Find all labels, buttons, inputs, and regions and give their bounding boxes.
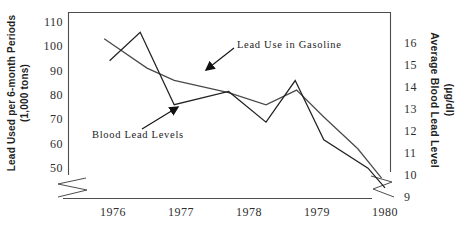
arrow-to-blood-line-icon	[142, 107, 178, 129]
right-axis-title: Average Blood Lead Level	[429, 32, 441, 168]
right-axis-title-unit: (µg/dl)	[444, 83, 456, 116]
left-tick-label-90: 90	[50, 64, 63, 78]
left-axis-title-line1: Lead Used per 6-month Periods	[5, 15, 18, 171]
left-tick-label-80: 80	[50, 88, 63, 102]
left-axis-break-icon	[58, 178, 87, 197]
x-tick-label-1980: 1980	[372, 205, 398, 219]
left-axis-title: Lead Used per 6-month Periods (1,000 ton…	[5, 15, 31, 171]
right-tick-label-11: 11	[404, 146, 417, 160]
left-tick-label-70: 70	[50, 112, 63, 126]
right-tick-label-9: 9	[404, 190, 411, 204]
left-tick-label-60: 60	[50, 137, 63, 151]
right-tick-label-10: 10	[404, 168, 417, 182]
x-tick-label-1979: 1979	[304, 205, 330, 219]
right-tick-label-15: 15	[404, 58, 417, 72]
right-tick-label-13: 13	[404, 102, 417, 116]
left-tick-label-50: 50	[50, 161, 63, 175]
gasoline-series-label: Lead Use in Gasoline	[237, 39, 342, 50]
lead-gasoline-blood-lead-chart: 1101009080706050161514131211109197619771…	[0, 0, 469, 232]
x-tick-label-1976: 1976	[100, 205, 126, 219]
axis-frame	[69, 13, 391, 176]
right-tick-label-14: 14	[404, 80, 417, 94]
x-tick-label-1977: 1977	[168, 205, 194, 219]
left-axis-title-line2: (1,000 tons)	[18, 15, 31, 171]
x-tick-label-1978: 1978	[236, 205, 262, 219]
left-tick-label-110: 110	[44, 15, 63, 29]
blood-series-label: Blood Lead Levels	[92, 129, 184, 140]
right-axis-break-icon	[371, 176, 394, 197]
data-layer: 1101009080706050161514131211109197619771…	[44, 15, 418, 219]
left-tick-label-100: 100	[44, 39, 64, 53]
plot-area: 1101009080706050161514131211109197619771…	[0, 0, 469, 232]
arrow-to-gasoline-line-icon	[206, 48, 234, 70]
right-tick-label-16: 16	[404, 36, 417, 50]
right-tick-label-12: 12	[404, 124, 417, 138]
series-line-lead-use-in-gasoline	[104, 39, 381, 178]
series-line-blood-lead-levels	[110, 32, 385, 188]
